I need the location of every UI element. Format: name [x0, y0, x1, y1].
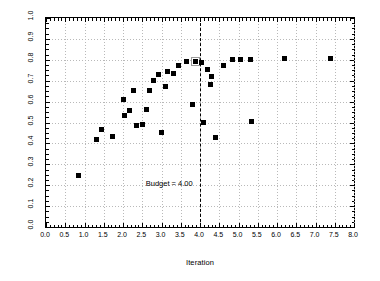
scatter-point[interactable] [140, 122, 145, 127]
scatter-point[interactable] [147, 88, 152, 93]
y-tick-major [46, 185, 50, 186]
scatter-point[interactable] [144, 107, 149, 112]
gridline-vertical [219, 18, 220, 227]
x-tick-major [239, 223, 240, 227]
scatter-point[interactable] [199, 60, 204, 65]
scatter-point[interactable] [238, 57, 243, 62]
scatter-point[interactable] [190, 102, 195, 107]
x-tick-minor [192, 18, 193, 21]
scatter-point[interactable] [230, 57, 235, 62]
scatter-point[interactable] [159, 130, 164, 135]
tick-layer [46, 18, 354, 227]
x-tick-minor [350, 18, 351, 21]
x-tick-minor [327, 225, 328, 228]
x-tick-minor [265, 225, 266, 228]
x-tick-major [142, 223, 143, 227]
scatter-point[interactable] [121, 97, 126, 102]
scatter-point[interactable] [282, 56, 287, 61]
x-tick-minor [158, 225, 159, 228]
x-tick-minor [185, 225, 186, 228]
scatter-point[interactable] [156, 72, 161, 77]
scatter-point[interactable] [171, 71, 176, 76]
y-tick-minor [46, 196, 49, 197]
x-tick-minor [154, 18, 155, 21]
y-tick-minor [352, 201, 355, 202]
scatter-point[interactable] [122, 113, 127, 118]
x-tick-minor [196, 225, 197, 228]
scatter-point[interactable] [99, 127, 104, 132]
y-tick-label: 0.8 [27, 46, 34, 68]
scatter-point[interactable] [249, 119, 254, 124]
y-tick-minor [46, 201, 49, 202]
x-tick-major [296, 223, 297, 227]
scatter-point[interactable] [205, 67, 210, 72]
y-tick-minor [46, 133, 49, 134]
y-tick-minor [46, 175, 49, 176]
x-tick-minor [285, 18, 286, 21]
x-tick-minor [127, 18, 128, 21]
x-tick-major [200, 223, 201, 227]
scatter-point[interactable] [184, 59, 189, 64]
gridline-vertical [142, 18, 143, 227]
gridline-horizontal [46, 143, 354, 144]
scatter-point[interactable] [94, 137, 99, 142]
y-tick-minor [352, 23, 355, 24]
scatter-point[interactable] [163, 84, 168, 89]
gridline-vertical [277, 18, 278, 227]
x-tick-major [162, 18, 163, 22]
gridline-vertical [296, 18, 297, 227]
y-tick-minor [352, 138, 355, 139]
scatter-point[interactable] [165, 69, 170, 74]
x-tick-minor [50, 225, 51, 228]
y-tick-major [350, 60, 354, 61]
y-tick-minor [352, 175, 355, 176]
scatter-point[interactable] [131, 88, 136, 93]
x-tick-minor [235, 225, 236, 228]
x-tick-major [181, 223, 182, 227]
x-tick-minor [115, 18, 116, 21]
plot-area[interactable]: Budget = 4.00 [45, 17, 355, 228]
scatter-point[interactable] [213, 135, 218, 140]
x-tick-minor [339, 18, 340, 21]
x-tick-minor [127, 225, 128, 228]
y-tick-minor [46, 180, 49, 181]
scatter-point[interactable] [176, 63, 181, 68]
x-tick-minor [300, 225, 301, 228]
y-tick-major [350, 164, 354, 165]
y-tick-minor [352, 222, 355, 223]
x-tick-minor [273, 18, 274, 21]
x-tick-minor [150, 225, 151, 228]
scatter-point[interactable] [134, 123, 139, 128]
x-tick-minor [135, 18, 136, 21]
x-tick-minor [242, 18, 243, 21]
x-tick-minor [138, 18, 139, 21]
scatter-point[interactable] [127, 108, 132, 113]
scatter-point[interactable] [151, 78, 156, 83]
y-tick-minor [46, 211, 49, 212]
scatter-point[interactable] [76, 173, 81, 178]
scatter-point-selected[interactable] [193, 59, 198, 64]
y-tick-minor [46, 159, 49, 160]
y-tick-minor [46, 190, 49, 191]
x-tick-major [181, 18, 182, 22]
scatter-point[interactable] [201, 120, 206, 125]
scatter-point[interactable] [328, 56, 333, 61]
x-tick-label: 8.0 [341, 231, 365, 238]
x-tick-minor [146, 225, 147, 228]
x-tick-minor [135, 225, 136, 228]
scatter-point[interactable] [248, 57, 253, 62]
y-tick-major [350, 227, 354, 228]
scatter-point[interactable] [209, 74, 214, 79]
y-tick-minor [352, 70, 355, 71]
y-tick-major [350, 143, 354, 144]
scatter-point[interactable] [110, 134, 115, 139]
scatter-point[interactable] [221, 63, 226, 68]
y-tick-minor [352, 117, 355, 118]
y-tick-label: 0.3 [27, 151, 34, 173]
gridline-horizontal [46, 164, 354, 165]
x-tick-minor [169, 225, 170, 228]
x-tick-minor [154, 225, 155, 228]
x-tick-minor [281, 225, 282, 228]
scatter-point[interactable] [208, 82, 213, 87]
x-tick-minor [54, 18, 55, 21]
